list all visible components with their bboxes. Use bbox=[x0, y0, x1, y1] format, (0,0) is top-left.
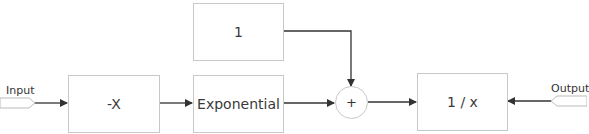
reciprocal-block[interactable]: 1 / x bbox=[417, 73, 508, 131]
negate-block-label: -X bbox=[107, 96, 121, 112]
constant-block-label: 1 bbox=[234, 24, 243, 40]
constant-block[interactable]: 1 bbox=[193, 3, 284, 61]
negate-block[interactable]: -X bbox=[68, 75, 160, 133]
exponential-block-label: Exponential bbox=[197, 96, 280, 112]
reciprocal-block-label: 1 / x bbox=[447, 94, 478, 110]
arrow-constant-to-adder bbox=[283, 31, 351, 86]
input-port-shape bbox=[0, 98, 35, 108]
adder-block[interactable]: + bbox=[335, 86, 368, 119]
input-port-label: Input bbox=[6, 84, 34, 97]
plus-icon: + bbox=[346, 95, 357, 110]
exponential-block[interactable]: Exponential bbox=[193, 75, 284, 133]
output-port-label: Output bbox=[551, 82, 589, 95]
output-port-shape bbox=[551, 96, 587, 106]
